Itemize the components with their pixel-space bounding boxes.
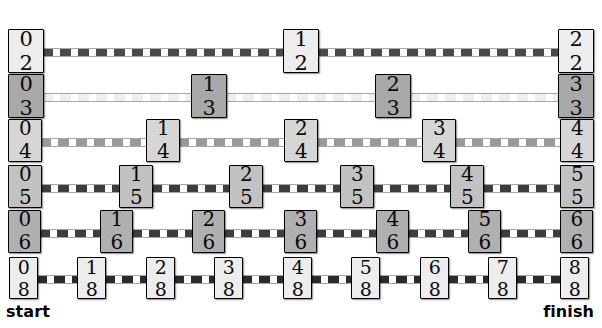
fraction-numerator: 4 [292, 258, 304, 277]
fraction-numerator: 3 [351, 165, 363, 185]
fraction-box[interactable]: 33 [558, 74, 594, 118]
fraction-numerator: 2 [570, 29, 583, 50]
fraction-denominator: 5 [351, 188, 363, 208]
fraction-box[interactable]: 02 [8, 29, 44, 73]
dashed-connector [36, 275, 79, 284]
fraction-denominator: 6 [18, 233, 30, 253]
fraction-denominator: 5 [19, 188, 31, 208]
dashed-connector [316, 138, 424, 147]
finish-label: finish [543, 302, 594, 321]
fraction-box[interactable]: 24 [284, 119, 318, 162]
fraction-box[interactable]: 46 [376, 210, 409, 253]
fraction-row-eighths: 081828384858687888 [0, 257, 602, 299]
fraction-box[interactable]: 66 [560, 210, 593, 253]
fraction-box[interactable]: 35 [340, 165, 374, 208]
fraction-numerator: 4 [571, 119, 583, 139]
dashed-connector [241, 275, 285, 284]
dashed-connector [372, 184, 452, 193]
dashed-connector [40, 138, 148, 147]
fraction-box[interactable]: 48 [283, 257, 312, 299]
fraction-numerator: 3 [223, 258, 235, 277]
fraction-denominator: 4 [157, 142, 169, 162]
fraction-box[interactable]: 22 [558, 29, 594, 73]
fraction-numerator: 1 [110, 210, 122, 230]
dashed-connector [515, 275, 562, 284]
fraction-ladder-diagram: 0212220313233304142434440515253545550616… [0, 0, 602, 328]
dashed-connector [131, 229, 194, 238]
start-label: start [6, 302, 50, 321]
fraction-box[interactable]: 16 [100, 210, 133, 253]
fraction-box[interactable]: 04 [8, 119, 42, 162]
dashed-connector [178, 138, 286, 147]
fraction-numerator: 8 [569, 258, 581, 277]
fraction-denominator: 8 [569, 280, 581, 299]
fraction-denominator: 8 [155, 280, 167, 299]
fraction-numerator: 2 [240, 165, 252, 185]
fraction-box[interactable]: 03 [8, 74, 44, 118]
dashed-connector [261, 184, 342, 193]
fraction-numerator: 0 [20, 74, 33, 95]
fraction-row-sixths: 06162636465666 [0, 210, 602, 253]
dashed-connector [317, 48, 560, 57]
fraction-numerator: 4 [386, 210, 398, 230]
fraction-denominator: 3 [570, 98, 583, 119]
fraction-box[interactable]: 18 [77, 257, 106, 299]
fraction-box[interactable]: 13 [191, 74, 227, 118]
fraction-denominator: 6 [202, 233, 214, 253]
fraction-denominator: 8 [292, 280, 304, 299]
fraction-numerator: 0 [18, 258, 30, 277]
fraction-box[interactable]: 06 [8, 210, 41, 253]
fraction-numerator: 6 [429, 258, 441, 277]
fraction-box[interactable]: 44 [560, 119, 594, 162]
fraction-denominator: 6 [570, 233, 582, 253]
fraction-box[interactable]: 68 [420, 257, 449, 299]
fraction-box[interactable]: 34 [422, 119, 456, 162]
fraction-numerator: 5 [478, 210, 490, 230]
fraction-numerator: 6 [570, 210, 582, 230]
fraction-box[interactable]: 23 [375, 74, 411, 118]
fraction-denominator: 3 [20, 98, 33, 119]
fraction-row-halves: 021222 [0, 29, 602, 73]
fraction-box[interactable]: 45 [450, 165, 484, 208]
fraction-box[interactable]: 08 [9, 257, 38, 299]
fraction-box[interactable]: 12 [283, 29, 319, 73]
fraction-box[interactable]: 05 [8, 165, 42, 208]
fraction-box[interactable]: 56 [468, 210, 501, 253]
dashed-connector [407, 229, 470, 238]
dashed-connector [223, 229, 286, 238]
fraction-denominator: 6 [110, 233, 122, 253]
fraction-numerator: 2 [202, 210, 214, 230]
fraction-denominator: 2 [570, 53, 583, 74]
fraction-denominator: 3 [387, 98, 400, 119]
fraction-denominator: 4 [433, 142, 445, 162]
fraction-denominator: 4 [19, 142, 31, 162]
fraction-numerator: 4 [461, 165, 473, 185]
fraction-box[interactable]: 14 [146, 119, 180, 162]
fraction-box[interactable]: 58 [351, 257, 380, 299]
fraction-denominator: 6 [386, 233, 398, 253]
fraction-box[interactable]: 28 [146, 257, 175, 299]
dashed-connector [409, 93, 560, 102]
fraction-numerator: 1 [86, 258, 98, 277]
dashed-connector [42, 93, 193, 102]
fraction-box[interactable]: 55 [560, 165, 594, 208]
fraction-numerator: 3 [294, 210, 306, 230]
fraction-denominator: 2 [295, 53, 308, 74]
fraction-numerator: 1 [157, 119, 169, 139]
fraction-box[interactable]: 26 [192, 210, 225, 253]
fraction-box[interactable]: 15 [119, 165, 153, 208]
fraction-box[interactable]: 78 [488, 257, 517, 299]
dashed-connector [104, 275, 148, 284]
fraction-numerator: 5 [571, 165, 583, 185]
fraction-box[interactable]: 36 [284, 210, 317, 253]
fraction-box[interactable]: 88 [560, 257, 589, 299]
dashed-connector [42, 48, 285, 57]
fraction-denominator: 2 [20, 53, 33, 74]
fraction-numerator: 0 [18, 210, 30, 230]
fraction-numerator: 2 [295, 119, 307, 139]
fraction-box[interactable]: 25 [229, 165, 263, 208]
fraction-denominator: 3 [203, 98, 216, 119]
fraction-numerator: 0 [20, 29, 33, 50]
fraction-box[interactable]: 38 [214, 257, 243, 299]
dashed-connector [499, 229, 562, 238]
